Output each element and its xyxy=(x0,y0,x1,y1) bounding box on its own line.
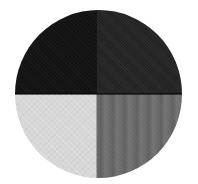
vertical-divider xyxy=(96,94,97,178)
swatch-quadrant-medium-gray xyxy=(97,94,182,178)
color-swatch-image xyxy=(0,0,198,184)
swatch-quadrant-black xyxy=(15,10,97,94)
swatch-quadrant-light-gray xyxy=(15,94,97,178)
swatch-quadrant-charcoal xyxy=(97,10,182,94)
fabric-swatch-circle xyxy=(15,10,182,178)
horizontal-divider xyxy=(15,93,182,95)
